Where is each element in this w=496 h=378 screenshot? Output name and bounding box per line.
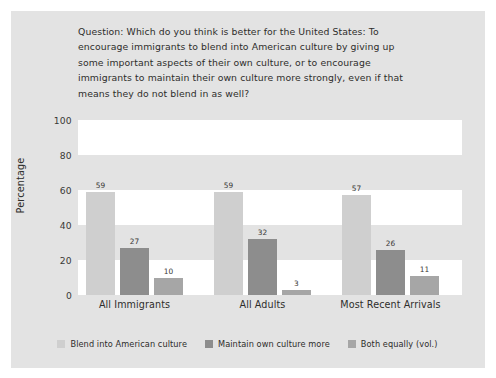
chart-legend: Blend into American cultureMaintain own … — [20, 334, 475, 354]
x-tick-label: All Immigrants — [99, 299, 170, 310]
bar — [154, 278, 183, 296]
bar — [214, 192, 243, 295]
bar — [248, 239, 277, 295]
bar — [282, 290, 311, 295]
y-tick-label: 0 — [46, 290, 72, 301]
legend-item[interactable]: Blend into American culture — [57, 339, 187, 349]
bar — [342, 195, 371, 295]
x-tick-label: Most Recent Arrivals — [340, 299, 440, 310]
bar — [86, 192, 115, 295]
question-text: Question: Which do you think is better f… — [78, 24, 420, 101]
y-tick-label: 40 — [46, 220, 72, 231]
legend-item[interactable]: Maintain own culture more — [205, 339, 330, 349]
legend-label: Both equally (vol.) — [361, 339, 438, 349]
y-tick-label: 80 — [46, 150, 72, 161]
bar — [376, 250, 405, 296]
bar-value-label: 3 — [282, 279, 311, 288]
bar-value-label: 10 — [154, 267, 183, 276]
y-tick-label: 60 — [46, 185, 72, 196]
chart-figure: Question: Which do you think is better f… — [0, 0, 496, 378]
bars-layer: 59271059323572611 — [78, 120, 462, 295]
legend-swatch — [348, 340, 356, 348]
bar-value-label: 32 — [248, 228, 277, 237]
x-tick-label: All Adults — [240, 299, 286, 310]
bar-value-label: 27 — [120, 237, 149, 246]
legend-swatch — [57, 340, 65, 348]
y-tick-label: 100 — [46, 115, 72, 126]
bar-value-label: 11 — [410, 265, 439, 274]
bar — [120, 248, 149, 295]
bar-value-label: 57 — [342, 184, 371, 193]
plot-area: 59271059323572611 — [78, 120, 462, 295]
y-axis-label: Percentage — [15, 138, 26, 234]
bar-value-label: 59 — [86, 181, 115, 190]
bar-value-label: 59 — [214, 181, 243, 190]
bar — [410, 276, 439, 295]
legend-label: Maintain own culture more — [218, 339, 330, 349]
bar-value-label: 26 — [376, 239, 405, 248]
legend-item[interactable]: Both equally (vol.) — [348, 339, 438, 349]
legend-swatch — [205, 340, 213, 348]
legend-label: Blend into American culture — [70, 339, 187, 349]
y-axis-ticks: 020406080100 — [44, 120, 72, 295]
y-tick-label: 20 — [46, 255, 72, 266]
x-axis-labels: All ImmigrantsAll AdultsMost Recent Arri… — [78, 299, 462, 315]
